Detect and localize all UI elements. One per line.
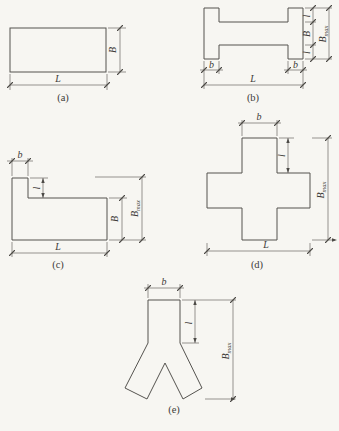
arrow-down [193, 338, 196, 343]
figure-b: l B l Bmax b b L (b) [200, 6, 332, 105]
dimension-lines [200, 8, 332, 89]
arrow-up [286, 138, 289, 143]
arrow-down [286, 168, 289, 173]
dim-label-Bmax: Bmax [315, 181, 327, 198]
dim-label-b-right: b [293, 59, 298, 70]
figure-caption-c: (c) [52, 259, 64, 271]
dim-label-Bmax-sub: max [134, 200, 141, 211]
arrow-right [332, 238, 337, 241]
dim-label-b-left: b [209, 59, 214, 70]
dimension-lines [144, 284, 236, 399]
dimension-lines [207, 120, 335, 256]
dim-label-Bmax-sub: max [322, 25, 329, 36]
dim-label-Bmax-sub: max [320, 181, 327, 192]
dimension-lines [10, 28, 126, 90]
dim-label-L: L [262, 239, 269, 250]
dim-label-l-top: l [301, 14, 312, 17]
dim-label-Bmax: Bmax [220, 342, 232, 359]
dim-label-B: B [107, 47, 118, 53]
dim-label-Bmax-sub: max [225, 342, 232, 353]
dim-label-L: L [54, 241, 61, 252]
rectangular-footing-outline [10, 28, 106, 72]
figure-c: b l B Bmax L (c) [7, 149, 146, 271]
dim-label-l: l [183, 321, 194, 324]
dimension-ticks [10, 159, 145, 256]
figure-d: b l Bmax L (d) [205, 111, 338, 271]
dimension-ticks [205, 121, 331, 254]
dimension-ticks [202, 6, 332, 88]
dim-label-L: L [249, 73, 256, 84]
dim-label-Bmax: Bmax [317, 25, 329, 42]
arrow-down [41, 193, 44, 198]
figure-caption-a: (a) [57, 92, 69, 104]
figure-caption-b: (b) [247, 92, 260, 104]
dim-label-B: B [301, 31, 312, 37]
figure-e: b l Bmax (e) [125, 276, 236, 416]
dim-label-l-bottom: l [301, 51, 312, 54]
y-shaped-footing-outline [125, 300, 202, 399]
dim-label-b: b [18, 149, 23, 160]
figure-a: B L (a) [8, 26, 127, 105]
stepped-footing-outline [12, 178, 107, 240]
foundation-plan-shapes-diagram: B L (a) l B l Bmax b b L (b) b l B [0, 0, 339, 431]
dimension-ticks [8, 26, 123, 88]
cruciform-footing-outline [207, 138, 310, 240]
dimension-ticks [146, 286, 236, 402]
dim-label-B: B [109, 216, 120, 222]
dim-label-l: l [276, 154, 287, 157]
dimension-lines [7, 158, 146, 257]
figure-caption-d: (d) [251, 259, 264, 271]
dim-label-b: b [162, 276, 167, 287]
i-shaped-footing-outline [204, 8, 303, 59]
figure-caption-e: (e) [168, 404, 180, 416]
scanned-diagram-page: B L (a) l B l Bmax b b L (b) b l B [0, 0, 339, 431]
dim-label-b: b [257, 111, 262, 122]
dim-label-Bmax: Bmax [129, 200, 141, 217]
dim-label-l: l [31, 186, 42, 189]
arrow-up [41, 178, 44, 183]
arrow-up [193, 300, 196, 305]
dim-label-L: L [54, 73, 61, 84]
